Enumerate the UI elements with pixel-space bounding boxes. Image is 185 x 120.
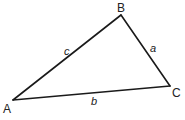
vertex-b-label: B bbox=[117, 1, 125, 15]
side-b-label: b bbox=[91, 95, 97, 107]
vertex-c-label: C bbox=[172, 86, 181, 100]
side-c-edge bbox=[13, 15, 121, 100]
side-a-edge bbox=[121, 15, 170, 86]
vertex-a-label: A bbox=[3, 102, 11, 116]
side-a-label: a bbox=[150, 42, 156, 54]
side-c-label: c bbox=[64, 45, 70, 57]
triangle-diagram: A B C c a b bbox=[0, 0, 185, 120]
